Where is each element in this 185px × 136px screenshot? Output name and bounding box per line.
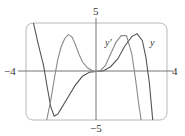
curve-label-y-prime: y′ xyxy=(105,38,112,48)
x-axis-right-label: 4 xyxy=(172,66,178,77)
curve-label-y: y xyxy=(150,38,154,48)
x-axis-left-label: −4 xyxy=(4,66,16,77)
y-axis-bottom-label: −5 xyxy=(90,123,102,134)
function-plot xyxy=(0,0,185,136)
y-axis-top-label: 5 xyxy=(93,6,99,17)
